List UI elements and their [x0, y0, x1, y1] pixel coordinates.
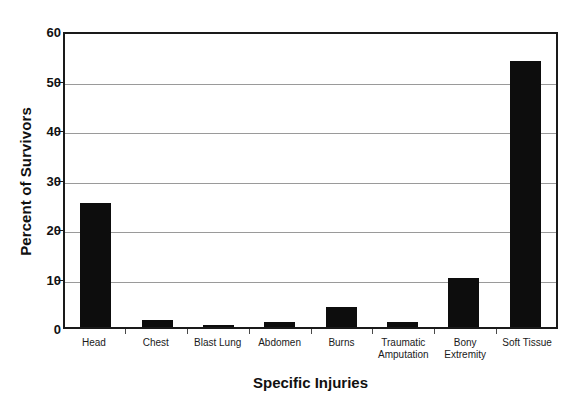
y-axis-tick-label: 50: [15, 74, 61, 89]
bar-series: [65, 34, 556, 327]
y-axis-tick-mark: [56, 280, 63, 281]
y-axis-tick-mark: [56, 181, 63, 182]
x-axis-tick-label-line1: Chest: [143, 337, 169, 348]
bar: [203, 325, 234, 327]
x-axis-tick-label-line1: Head: [82, 337, 106, 348]
plot-inner: [65, 34, 556, 327]
x-axis-tick-label-line1: Traumatic: [381, 337, 425, 348]
y-axis-tick-mark: [56, 230, 63, 231]
bar-slot: [495, 34, 556, 327]
x-axis-tick-label: Chest: [125, 334, 187, 374]
y-axis-tick-mark: [56, 82, 63, 83]
bar-slot: [249, 34, 310, 327]
bar-slot: [126, 34, 187, 327]
bar-slot: [188, 34, 249, 327]
y-axis-tick-label: 20: [15, 223, 61, 238]
bar-slot: [433, 34, 494, 327]
bar: [142, 320, 173, 327]
x-axis-tick-label: Soft Tissue: [496, 334, 558, 374]
x-axis-tick-label-line1: Burns: [328, 337, 354, 348]
x-axis-tick-label: BonyExtremity: [434, 334, 496, 374]
x-axis-tick-label-line1: Abdomen: [258, 337, 301, 348]
y-axis-tick-label: 60: [15, 25, 61, 40]
x-axis-tick-label-line1: Soft Tissue: [502, 337, 551, 348]
bar: [387, 322, 418, 327]
x-axis-tick-label: Blast Lung: [187, 334, 249, 374]
bar-slot: [311, 34, 372, 327]
x-axis-tick-label-line1: Bony: [454, 337, 477, 348]
bar-slot: [372, 34, 433, 327]
x-axis-tick-label: Head: [63, 334, 125, 374]
bar: [448, 278, 479, 328]
x-axis-tick-label: TraumaticAmputation: [372, 334, 434, 374]
chart-figure: Percent of Survivors 0102030405060 HeadC…: [0, 0, 580, 402]
y-axis-tick-label: 30: [15, 173, 61, 188]
x-axis-tick-labels: HeadChestBlast LungAbdomenBurnsTraumatic…: [63, 334, 558, 374]
y-axis-tick-mark: [56, 131, 63, 132]
bar: [264, 322, 295, 327]
y-axis-tick-label: 10: [15, 272, 61, 287]
bar: [510, 61, 541, 327]
x-axis-tick-label: Abdomen: [249, 334, 311, 374]
bar: [326, 307, 357, 327]
x-axis-tick-label: Burns: [311, 334, 373, 374]
x-axis-tick-label-line2: Extremity: [434, 349, 496, 361]
y-axis-tick-label: 0: [15, 322, 61, 337]
x-axis-tick-label-line1: Blast Lung: [194, 337, 241, 348]
bar: [80, 203, 111, 327]
x-axis-title: Specific Injuries: [63, 374, 558, 391]
plot-area: [63, 32, 558, 329]
x-axis-tick-label-line2: Amputation: [372, 349, 434, 361]
bar-slot: [65, 34, 126, 327]
y-axis-tick-label: 40: [15, 124, 61, 139]
